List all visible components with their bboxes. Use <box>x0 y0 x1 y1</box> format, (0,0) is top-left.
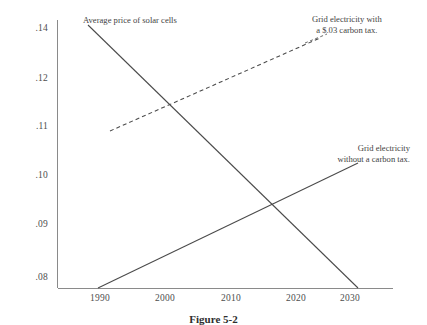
annotation-solar-cells: Average price of solar cells <box>83 15 177 26</box>
y-axis-tick-label: .12 <box>14 73 48 83</box>
figure-caption: Figure 5-2 <box>0 313 427 325</box>
y-axis-tick-label: .08 <box>14 272 48 282</box>
annotation-grid-with-carbon-tax-line2: a $.03 carbon tax. <box>312 25 382 36</box>
annotation-solar-cells-text: Average price of solar cells <box>83 15 177 25</box>
annotation-grid-without-carbon-tax-line1: Grid electricity <box>296 143 410 154</box>
y-axis-tick-label: .11 <box>14 121 48 131</box>
x-axis-tick-label: 2020 <box>276 293 316 303</box>
series-line-grid-without-carbon-tax <box>98 163 358 288</box>
x-axis-tick-label: 2010 <box>211 293 251 303</box>
y-axis-tick-label: .10 <box>14 170 48 180</box>
figure-root: .14 .12 .11 .10 .09 .08 1990 2000 2010 2… <box>0 0 427 325</box>
annotation-grid-with-carbon-tax-line1: Grid electricity with <box>312 14 382 25</box>
leader-line-carbon-tax <box>305 34 327 43</box>
x-axis-tick-label: 2000 <box>145 293 185 303</box>
annotation-grid-without-carbon-tax-line2: without a carbon tax. <box>296 154 410 165</box>
annotation-grid-with-carbon-tax: Grid electricity with a $.03 carbon tax. <box>312 14 382 35</box>
x-axis-tick-label: 2030 <box>330 293 370 303</box>
y-axis-tick-label: .14 <box>14 23 48 33</box>
annotation-grid-without-carbon-tax: Grid electricity without a carbon tax. <box>296 143 410 164</box>
y-axis-tick-label: .09 <box>14 219 48 229</box>
x-axis-tick-label: 1990 <box>80 293 120 303</box>
series-line-grid-with-carbon-tax <box>110 38 320 131</box>
